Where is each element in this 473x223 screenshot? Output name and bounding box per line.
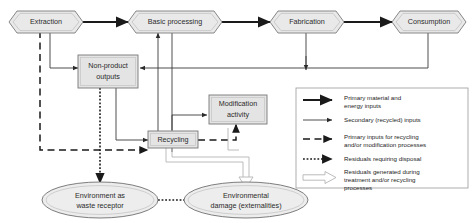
node-environment-waste-receptor-label-1: Environment as: [75, 191, 125, 200]
legend-entry-primary-line2: energy inputs: [344, 102, 381, 109]
node-basic-processing[interactable]: Basic processing: [128, 11, 222, 33]
node-environment-waste-receptor-label-2: waste receptor: [75, 201, 124, 210]
flow-nonproduct-to-recycling: [116, 88, 148, 140]
flow-recycling-residual-outline-b: [172, 148, 249, 178]
node-consumption[interactable]: Consumption: [392, 11, 466, 33]
node-environmental-damage-label-2: damage (externalities): [210, 201, 281, 210]
legend-entry-hollow-line2: treatment and/or recycling: [344, 176, 416, 183]
legend-entry-dashed-line2: and/or modification processes: [344, 141, 426, 148]
flow-extraction-to-recycling-dashed: [40, 31, 148, 150]
node-fabrication[interactable]: Fabrication: [270, 11, 344, 33]
node-environment-waste-receptor[interactable]: Environment as waste receptor: [42, 182, 158, 218]
node-environmental-damage[interactable]: Environmental damage (externalities): [184, 182, 308, 218]
node-modification-activity-label-1: Modification: [219, 99, 257, 108]
flow-recycling-to-modification-dashed: [198, 124, 236, 140]
node-consumption-label: Consumption: [408, 17, 450, 26]
legend-entry-secondary-line1: Secondary (recycled) inputs: [344, 116, 421, 123]
legend-entry-hollow-line1: Residuals generated during: [344, 168, 420, 175]
node-recycling-label: Recycling: [157, 135, 188, 144]
node-recycling[interactable]: Recycling: [148, 131, 198, 148]
legend-entry-dashed-line1: Primary inputs for recycling: [344, 133, 419, 140]
node-extraction[interactable]: Extraction: [9, 11, 83, 33]
material-flow-diagram: Extraction Basic processing Fabrication …: [0, 0, 473, 223]
flow-modification-residual-outline: [228, 128, 239, 150]
node-modification-activity-label-2: activity: [227, 110, 249, 119]
node-fabrication-label: Fabrication: [289, 17, 325, 26]
diagram-canvas: Extraction Basic processing Fabrication …: [0, 0, 473, 223]
node-non-product-outputs[interactable]: Non-product outputs: [78, 55, 138, 88]
node-non-product-outputs-label-2: outputs: [96, 72, 120, 81]
flow-extraction-to-nonproduct: [50, 31, 78, 68]
node-extraction-label: Extraction: [30, 17, 62, 26]
node-environmental-damage-label-1: Environmental: [223, 191, 269, 200]
flow-recycling-residual-outline-a: [166, 148, 243, 178]
legend-entry-primary-line1: Primary material and: [344, 94, 402, 101]
legend-entry-dotted-line1: Residuals requiring disposal: [344, 155, 421, 162]
flow-recycling-to-modification: [172, 115, 207, 130]
node-basic-processing-label: Basic processing: [148, 17, 202, 26]
node-non-product-outputs-label-1: Non-product: [88, 61, 128, 70]
legend-entry-hollow-line3: processes: [344, 184, 372, 191]
legend: Primary material and energy inputs Secon…: [296, 88, 468, 191]
node-modification-activity[interactable]: Modification activity: [209, 95, 267, 124]
